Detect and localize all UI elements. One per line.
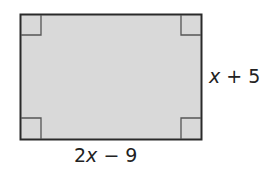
coefficient: 2 xyxy=(74,144,86,166)
bottom-side-label: 2x − 9 xyxy=(74,144,137,166)
bottom-side-expression: − 9 xyxy=(97,144,137,166)
variable-x: x xyxy=(209,65,220,87)
variable-x: x xyxy=(86,144,97,166)
right-side-expression: + 5 xyxy=(220,65,260,87)
rectangle-diagram xyxy=(0,0,280,176)
right-side-label: x + 5 xyxy=(209,65,260,87)
rectangle xyxy=(21,15,202,140)
